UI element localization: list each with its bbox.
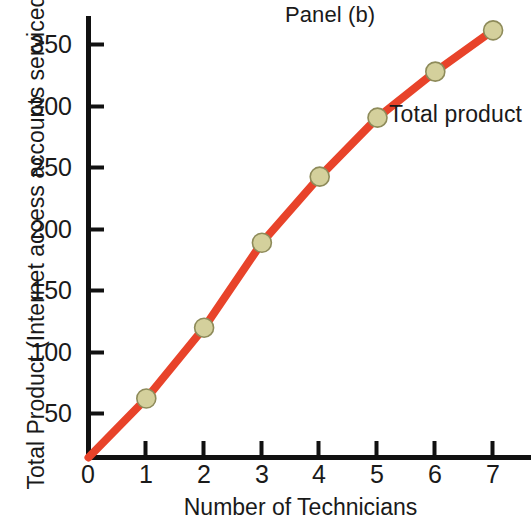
data-point-marker xyxy=(310,167,329,186)
data-point-marker xyxy=(426,62,445,81)
x-tick-label-5: 5 xyxy=(370,462,384,487)
series-annotation-label: Total product xyxy=(389,101,522,128)
data-point-marker xyxy=(252,233,271,252)
data-point-marker xyxy=(484,21,503,40)
x-tick-label-3: 3 xyxy=(255,462,269,487)
x-tick-label-2: 2 xyxy=(197,462,211,487)
x-tick-label-6: 6 xyxy=(428,462,442,487)
panel-title: Panel (b) xyxy=(285,2,375,28)
plot-canvas xyxy=(0,0,531,522)
x-tick-label-7: 7 xyxy=(486,462,500,487)
data-point-marker xyxy=(195,318,214,337)
chart-page: 350 300 250 200 150 100 50 0 1 2 3 4 5 6… xyxy=(0,0,531,522)
x-tick-label-4: 4 xyxy=(312,462,326,487)
x-tick-label-1: 1 xyxy=(139,462,153,487)
total-product-chart: 350 300 250 200 150 100 50 0 1 2 3 4 5 6… xyxy=(0,0,531,522)
x-axis-ticks xyxy=(146,441,493,457)
data-point-marker xyxy=(137,389,156,408)
x-axis-title: Number of Technicians xyxy=(0,494,531,521)
data-point-marker xyxy=(368,108,387,127)
x-tick-label-0: 0 xyxy=(81,462,95,487)
data-point-markers xyxy=(137,21,503,408)
y-axis-title: Total Product (Internet access accounts … xyxy=(23,20,50,490)
